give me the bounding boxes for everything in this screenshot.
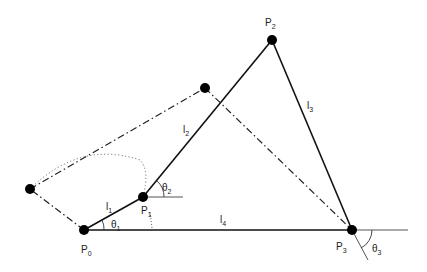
label-l2: l2 [183,124,189,137]
label-l3: l3 [307,100,313,113]
label-l1: l1 [106,201,112,214]
link-l3 [272,40,352,230]
label-l4: l4 [220,214,226,227]
label-p3: P3 [336,241,347,254]
alt-joint-b [200,83,210,93]
alternate-configuration [30,88,352,230]
link-l2 [143,40,272,197]
alt-joint-a [25,184,35,194]
joint-p1 [138,192,148,202]
label-theta3: θ3 [372,243,382,256]
theta3-arc [361,230,372,248]
label-p0: P0 [81,244,92,257]
label-p2: P2 [265,17,276,30]
theta1-arc [102,220,104,230]
joint-p0 [79,225,89,235]
joint-p3 [347,225,357,235]
four-bar-linkage-diagram: P0 P1 P2 P3 l1 l2 l3 l4 θ1 θ2 θ3 [0,0,427,272]
label-p1: P1 [141,205,152,218]
joint-p2 [267,35,277,45]
crank-sweep-arc [30,154,146,197]
